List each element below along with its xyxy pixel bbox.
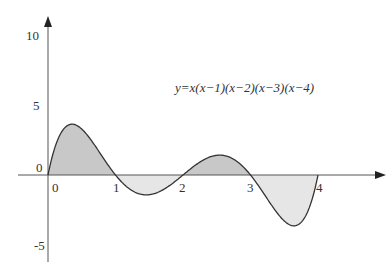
y-tick-10: 10 xyxy=(26,28,39,43)
shaded-region-0 xyxy=(48,124,116,175)
y-axis-arrow-icon xyxy=(44,16,52,27)
y-tick-neg5: -5 xyxy=(34,238,45,253)
x-tick-0: 0 xyxy=(52,180,59,195)
equation-label: y=x(x−1)(x−2)(x−3)(x−4) xyxy=(173,80,314,95)
shaded-region-2 xyxy=(183,155,251,175)
x-tick-4: 4 xyxy=(316,180,323,195)
polynomial-chart: 10 5 0 -5 0 1 2 3 4 y=x(x−1)(x−2)(x−3)(x… xyxy=(0,0,391,276)
x-tick-3: 3 xyxy=(247,180,254,195)
y-tick-0: 0 xyxy=(36,160,43,175)
x-tick-2: 2 xyxy=(179,180,186,195)
x-tick-1: 1 xyxy=(113,180,120,195)
y-tick-5: 5 xyxy=(33,98,40,113)
shaded-region-3 xyxy=(251,175,319,226)
shaded-region-1 xyxy=(116,175,184,195)
x-axis-arrow-icon xyxy=(375,171,386,179)
